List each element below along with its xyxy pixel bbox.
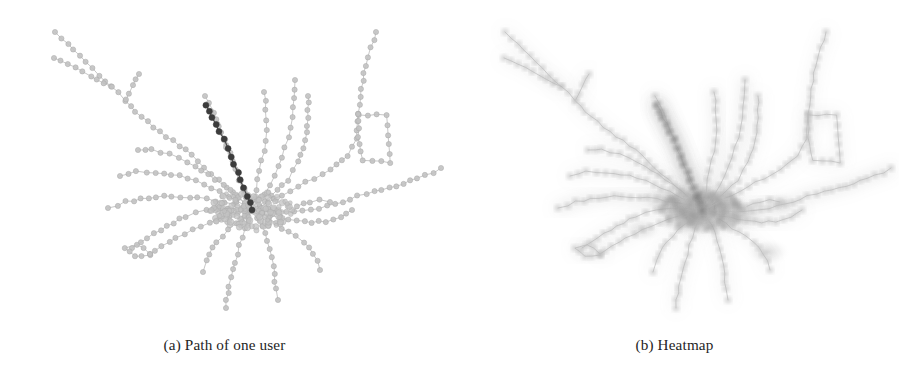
node (149, 147, 154, 152)
node (627, 173, 632, 178)
node (617, 151, 622, 156)
node (759, 220, 764, 225)
node (667, 189, 672, 194)
node (263, 230, 268, 235)
node (83, 59, 88, 64)
node (686, 242, 691, 247)
node (272, 279, 277, 284)
node (797, 197, 802, 202)
node (591, 245, 596, 250)
node (290, 105, 295, 110)
node (183, 215, 188, 220)
node (603, 195, 608, 200)
node (328, 167, 333, 172)
node (129, 104, 134, 109)
node (851, 181, 856, 186)
node (589, 114, 594, 119)
highlighted-path-node (237, 177, 243, 183)
heat-node-main (653, 102, 659, 108)
node (583, 77, 588, 82)
panel-heatmap: (b) Heatmap (450, 0, 899, 389)
node (292, 87, 297, 92)
node (551, 81, 556, 86)
node (317, 267, 322, 272)
node (752, 240, 757, 245)
hub-node (217, 213, 222, 218)
node (681, 267, 686, 272)
node (799, 144, 804, 149)
node (276, 164, 281, 169)
node (799, 207, 804, 212)
node (340, 200, 345, 205)
node (673, 297, 678, 302)
node (523, 65, 528, 70)
node (126, 171, 131, 176)
node (652, 182, 657, 187)
node (105, 205, 110, 210)
node (151, 231, 156, 236)
heat-node-main (671, 136, 677, 142)
node (193, 210, 198, 215)
node (744, 218, 749, 223)
hub-node (690, 200, 695, 205)
node (90, 65, 95, 70)
node (767, 197, 772, 202)
node (122, 246, 127, 251)
node (679, 275, 684, 280)
node (755, 107, 760, 112)
node (742, 77, 747, 82)
node (271, 264, 276, 269)
node (358, 94, 363, 99)
node (805, 193, 810, 198)
hub-node (233, 197, 238, 202)
node (363, 63, 368, 68)
node (822, 189, 827, 194)
node (116, 90, 121, 95)
node (272, 271, 277, 276)
node (650, 269, 655, 274)
node (139, 254, 144, 259)
node (210, 245, 215, 250)
node (132, 109, 137, 114)
node (158, 150, 163, 155)
node (58, 58, 63, 63)
node (824, 112, 829, 117)
node (755, 93, 760, 98)
node (316, 218, 321, 223)
hub-node (713, 197, 720, 204)
node (386, 133, 391, 138)
highlighted-path-node (247, 200, 253, 206)
node (713, 138, 718, 143)
node (717, 183, 722, 188)
node (640, 227, 645, 232)
edge-ne-rect-loop (358, 114, 390, 163)
node (355, 135, 360, 140)
node (303, 138, 308, 143)
node (815, 55, 820, 60)
node (300, 208, 305, 213)
hub-node (238, 191, 244, 197)
node (704, 188, 709, 193)
node (808, 86, 813, 91)
node (173, 235, 178, 240)
heat-node-main (666, 129, 672, 135)
node (349, 207, 354, 212)
node (305, 93, 310, 98)
node (358, 86, 363, 91)
node (808, 149, 813, 154)
node (89, 74, 94, 79)
hub-node (667, 196, 671, 200)
heat-node-main (678, 154, 684, 160)
node (286, 229, 291, 234)
highlighted-path-node (206, 108, 212, 114)
node (738, 125, 743, 130)
node (781, 217, 786, 222)
node (805, 111, 810, 116)
node (358, 149, 363, 154)
node (612, 171, 617, 176)
node (388, 160, 393, 165)
hub-node (721, 213, 726, 218)
node (387, 185, 392, 190)
node (190, 227, 195, 232)
node (365, 55, 370, 60)
